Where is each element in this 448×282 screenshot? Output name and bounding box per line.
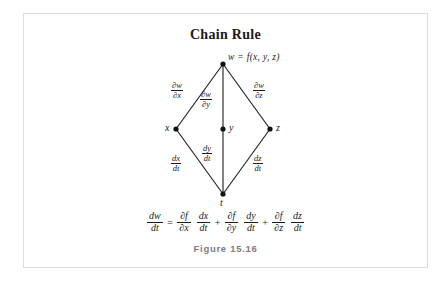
figure-box: Chain Rule — [23, 13, 428, 268]
equation-equals-sign: = — [164, 217, 176, 228]
node-dot-z — [267, 126, 272, 131]
chain-rule-equation: dw dt = ∂f ∂x dx dt + ∂f ∂y dy dt + ∂f ∂… — [24, 211, 427, 234]
equation-term3-derivative: dz dt — [291, 211, 304, 234]
edge-label-dz-dt: dz dt — [253, 154, 263, 173]
edge-label-dw-dy: ∂w ∂y — [200, 90, 212, 109]
node-dot-t — [220, 191, 225, 196]
edge-label-dz-dt-numerator: dz — [253, 154, 263, 163]
equation-plus-sign-2: + — [259, 217, 271, 228]
equation-term2-derivative: dy dt — [244, 211, 257, 234]
edge-label-dw-dx-numerator: ∂w — [171, 81, 183, 90]
edge-label-dx-dt-numerator: dx — [171, 154, 181, 163]
equation-lhs-fraction: dw dt — [147, 211, 163, 234]
edge-label-dx-dt: dx dt — [171, 154, 181, 173]
edge-x-t — [176, 129, 223, 194]
equation-term3-derivative-denominator: dt — [291, 222, 304, 234]
equation-term1-derivative-denominator: dt — [197, 222, 210, 234]
equation-term2-derivative-denominator: dt — [244, 222, 257, 234]
edge-label-dz-dt-denominator: dt — [253, 163, 263, 173]
edge-label-dw-dx-denominator: ∂x — [171, 90, 183, 100]
equation-term1-derivative-numerator: dx — [197, 211, 210, 222]
equation-term3-partial-numerator: ∂f — [272, 211, 285, 222]
node-dot-x — [173, 126, 178, 131]
node-label-x: x — [165, 122, 169, 133]
equation-lhs-denominator: dt — [147, 222, 163, 234]
edge-label-dw-dx: ∂w ∂x — [171, 81, 183, 100]
equation-plus-sign-1: + — [212, 217, 224, 228]
edge-label-dw-dy-denominator: ∂y — [200, 99, 212, 109]
node-dot-y — [220, 126, 225, 131]
equation-term1-partial: ∂f ∂x — [177, 211, 190, 234]
node-dot-w — [220, 61, 225, 66]
edge-label-dw-dz: ∂w ∂z — [253, 81, 265, 100]
equation-term2-derivative-numerator: dy — [244, 211, 257, 222]
page-top-clipped-text — [0, 0, 448, 11]
node-label-t: t — [220, 197, 223, 208]
node-label-z: z — [276, 122, 280, 133]
equation-term3-derivative-numerator: dz — [291, 211, 304, 222]
edge-label-dy-dt-denominator: dt — [202, 153, 212, 163]
equation-term2-partial-denominator: ∂y — [225, 222, 238, 234]
edge-label-dy-dt-numerator: dy — [202, 144, 212, 153]
edge-label-dw-dz-numerator: ∂w — [253, 81, 265, 90]
equation-term1-partial-numerator: ∂f — [177, 211, 190, 222]
node-label-y: y — [229, 122, 233, 133]
equation-term3-partial: ∂f ∂z — [272, 211, 285, 234]
equation-term2-partial: ∂f ∂y — [225, 211, 238, 234]
edge-label-dx-dt-denominator: dt — [171, 163, 181, 173]
equation-lhs-numerator: dw — [147, 211, 163, 222]
equation-term3-partial-denominator: ∂z — [272, 222, 285, 234]
equation-term2-partial-numerator: ∂f — [225, 211, 238, 222]
edge-z-t — [223, 129, 270, 194]
figure-caption: Figure 15.16 — [24, 243, 427, 254]
edge-label-dw-dy-numerator: ∂w — [200, 90, 212, 99]
edge-label-dy-dt: dy dt — [202, 144, 212, 163]
edge-label-dw-dz-denominator: ∂z — [253, 90, 265, 100]
equation-term1-partial-denominator: ∂x — [177, 222, 190, 234]
node-label-w: w = f(x, y, z) — [228, 52, 280, 62]
equation-term1-derivative: dx dt — [197, 211, 210, 234]
